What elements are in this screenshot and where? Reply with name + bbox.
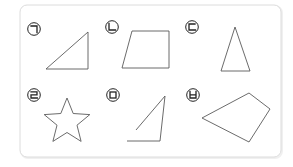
shapes-diagram: ㄱ ㄴ ㄷ ㄹ (0, 0, 293, 167)
label-circle (106, 21, 119, 34)
label-circle (107, 89, 120, 102)
label-badge-digeut (186, 21, 199, 34)
figure-panel (20, 5, 281, 157)
label-badge-rieul (28, 89, 41, 102)
label-circle (186, 21, 199, 34)
label-circle (28, 23, 41, 36)
figure-canvas: ㄱ ㄴ ㄷ ㄹ (0, 0, 293, 167)
label-badge-nieun (106, 21, 119, 34)
label-badge-mieum (107, 89, 120, 102)
label-badge-giyeok (28, 23, 41, 36)
label-badge-bieup (187, 89, 200, 102)
